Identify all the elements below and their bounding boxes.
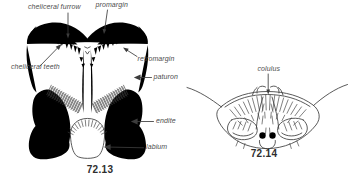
setae-hatching [230, 95, 306, 148]
spinnerets-drawing [187, 85, 348, 149]
median-spinneret-left [259, 132, 265, 138]
center-chevrons [85, 47, 91, 54]
lateral-spinneret-right [278, 118, 308, 139]
abdomen-whisker-left [187, 88, 222, 108]
line-art [0, 0, 349, 183]
anal-tubercle [259, 141, 275, 149]
labium-fringe [68, 120, 106, 134]
chelicerae-drawing [27, 23, 149, 160]
abdomen-whisker-right [314, 85, 348, 106]
diagram-page: cheliceral furrow promargin retromargin … [0, 0, 349, 183]
median-wedge [256, 97, 279, 129]
lateral-spinneret-left [227, 118, 257, 139]
